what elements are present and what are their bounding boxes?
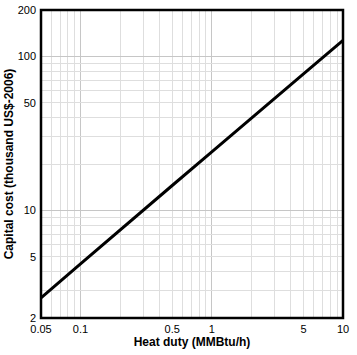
y-tick-label: 200 — [18, 4, 36, 16]
chart-canvas: 0.050.10.51510251050100200 — [0, 0, 357, 355]
y-tick-label: 100 — [18, 50, 36, 62]
chart: 0.050.10.51510251050100200 Heat duty (MM… — [0, 0, 357, 355]
x-tick-label: 1 — [209, 323, 215, 335]
x-tick-label: 0.1 — [73, 323, 88, 335]
y-axis-title: Capital cost (thousand US$-2006) — [2, 69, 16, 260]
x-tick-label: 10 — [337, 323, 349, 335]
x-tick-label: 0.5 — [165, 323, 180, 335]
x-tick-label: 0.05 — [30, 323, 51, 335]
y-tick-label: 5 — [30, 251, 36, 263]
x-axis-title: Heat duty (MMBtu/h) — [41, 335, 343, 349]
y-tick-label: 2 — [30, 312, 36, 324]
y-tick-label: 50 — [24, 97, 36, 109]
x-tick-label: 5 — [300, 323, 306, 335]
capital-cost-line — [41, 40, 343, 298]
y-tick-label: 10 — [24, 204, 36, 216]
